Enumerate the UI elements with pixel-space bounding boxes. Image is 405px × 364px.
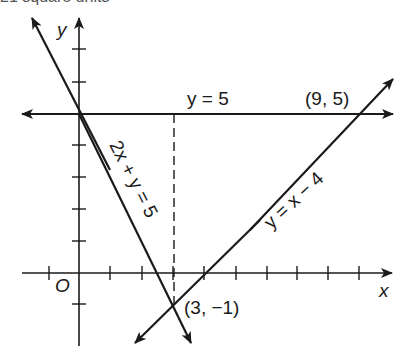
graph-figure: 21 square units (0, 0, 405, 364)
coordinate-plane: y x O y = 5 (9, 5) (3, −1) 2x + y = 5 y … (0, 0, 405, 364)
line-label-2x-plus-y-equals-5: 2x + y = 5 (105, 137, 162, 221)
y-axis-label: y (55, 19, 68, 40)
y-axis (72, 18, 86, 346)
x-axis-label: x (378, 280, 390, 301)
cropped-caption: 21 square units (0, 0, 109, 6)
point-label-9-5: (9, 5) (305, 88, 349, 109)
line-label-y-equals-x-minus-4: y = x − 4 (260, 167, 328, 232)
point-label-3-neg1: (3, −1) (184, 297, 239, 318)
line-label-y-equals-5: y = 5 (187, 88, 229, 109)
origin-label: O (55, 275, 70, 296)
